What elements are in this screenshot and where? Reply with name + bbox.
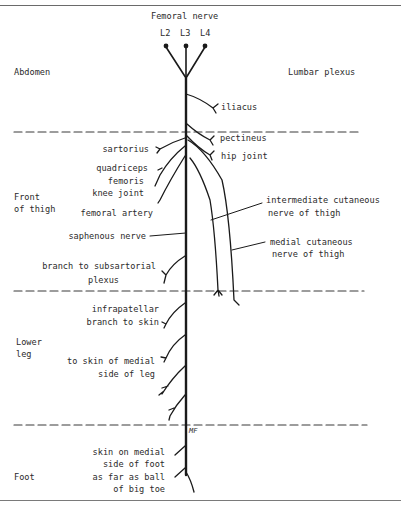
label-foot-skin-1: skin on medial	[93, 446, 165, 459]
branch-foot-2	[175, 468, 185, 477]
region-lower-leg-2: leg	[16, 348, 32, 361]
label-quadriceps-2: femoris	[108, 175, 144, 188]
branch-leg-skin-1	[161, 335, 185, 362]
branch-infrapatellar	[162, 303, 185, 328]
label-medial-leg-skin-1: to skin of medial	[67, 355, 155, 368]
branch-sartorius	[156, 138, 185, 153]
diagram-title: Femoral nerve	[151, 10, 218, 23]
label-intermediate-cutaneous-1: intermediate cutaneous	[266, 194, 380, 207]
label-iliacus: iliacus	[221, 101, 257, 114]
region-lower-leg-1: Lower	[16, 336, 42, 349]
label-quadriceps-1: quadriceps	[96, 162, 148, 175]
root-l4-dot	[203, 44, 208, 49]
label-foot-skin-3: as far as ball	[93, 471, 165, 484]
branch-leg-skin-2	[159, 366, 185, 395]
region-foot: Foot	[14, 471, 35, 484]
label-infrapatellar-2: branch to skin	[87, 316, 159, 329]
label-sartorius: sartorius	[102, 143, 149, 156]
region-front-of-thigh-1: Front	[14, 191, 40, 204]
branch-foot-1	[175, 446, 185, 455]
leader-intermediate	[211, 203, 262, 220]
label-subsartorial-1: branch to subsartorial	[42, 260, 156, 273]
root-label-l2: L2	[160, 27, 170, 40]
root-label-l4: L4	[200, 27, 210, 40]
label-medial-cutaneous-1: medial cutaneous	[270, 236, 353, 249]
intermediate-cutaneous-nerve	[190, 158, 222, 296]
label-hip-joint: hip joint	[221, 150, 268, 163]
root-l2	[166, 47, 186, 78]
root-l4	[186, 47, 205, 78]
region-front-of-thigh-2: of thigh	[14, 203, 55, 216]
leader-saphenous	[150, 233, 186, 236]
artist-mark: MF	[189, 425, 197, 438]
label-foot-skin-2: side of foot	[103, 458, 165, 471]
label-infrapatellar-1: infrapatellar	[92, 303, 159, 316]
label-medial-leg-skin-2: side of leg	[98, 368, 155, 381]
branch-femoral-artery	[158, 156, 185, 203]
branch-iliacus	[186, 94, 218, 113]
label-medial-cutaneous-2: nerve of thigh	[272, 248, 344, 261]
label-subsartorial-2: plexus	[88, 274, 119, 287]
label-femoral-artery: femoral artery	[81, 207, 153, 220]
region-lumbar-plexus: Lumbar plexus	[288, 66, 355, 79]
femoral-nerve-diagram: Femoral nerve L2 L3 L4 Abdomen Lumbar pl…	[0, 0, 401, 510]
region-abdomen: Abdomen	[14, 66, 50, 79]
label-saphenous-nerve: saphenous nerve	[68, 230, 146, 243]
branch-leg-skin-3	[169, 395, 185, 420]
label-pectineus: pectineus	[220, 132, 267, 145]
leader-medial	[232, 242, 265, 250]
branch-foot-3	[186, 472, 194, 492]
root-label-l3: L3	[180, 27, 190, 40]
root-l2-dot	[164, 44, 169, 49]
root-l3-dot	[184, 44, 189, 49]
label-knee-joint: knee joint	[92, 187, 144, 200]
branch-subsartorial	[162, 256, 185, 283]
label-foot-skin-4: of big toe	[113, 483, 165, 496]
label-intermediate-cutaneous-2: nerve of thigh	[268, 207, 340, 220]
